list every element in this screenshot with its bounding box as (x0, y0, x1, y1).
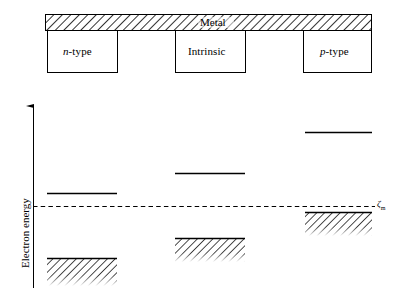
y-axis-label: Electron energy (20, 198, 31, 268)
region-label-intrinsic-roman-part: Intrinsic (188, 45, 226, 57)
fermi-level-label: ζm (377, 200, 385, 211)
semiconductor-band-diagram-figure: Metal n-type Intrinsic p-type Electron e… (0, 0, 393, 291)
fermi-level-subscript: m (381, 205, 386, 211)
region-label-intrinsic: Intrinsic (188, 46, 226, 57)
region-label-p-type: p-type (320, 46, 349, 57)
diagram-canvas (0, 0, 393, 291)
metal-label: Metal (200, 17, 226, 28)
valence-band-p-type (305, 212, 372, 236)
valence-band-intrinsic (175, 238, 245, 262)
region-label-n-type: n-type (63, 46, 92, 57)
valence-band-n-type (47, 258, 117, 286)
region-label-n-type-roman-part: -type (69, 45, 92, 57)
band-diagram-group (33, 106, 375, 288)
region-label-p-type-roman-part: -type (326, 45, 349, 57)
